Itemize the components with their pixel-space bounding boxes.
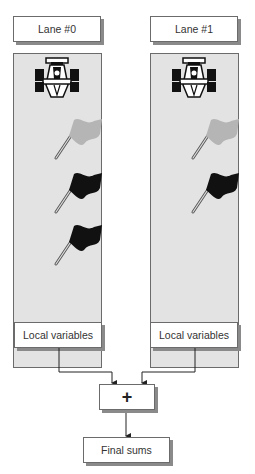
flag-black-icon	[52, 222, 102, 268]
race-car-icon	[32, 57, 82, 99]
flag-black-icon	[189, 170, 239, 216]
final-sums-label: Final sums	[101, 444, 152, 456]
final-sums-box: Final sums	[83, 437, 170, 463]
flag-gray-icon	[189, 116, 239, 162]
lane-0-header: Lane #0	[13, 16, 101, 42]
flag-gray-icon	[52, 116, 102, 162]
sum-operator-box: +	[99, 384, 155, 410]
lane-1-label: Lane #1	[175, 23, 213, 35]
flag-black-icon	[52, 170, 102, 216]
plus-icon: +	[122, 387, 133, 408]
lane-1-header: Lane #1	[150, 16, 238, 42]
lane-0-label: Lane #0	[38, 23, 76, 35]
race-car-icon	[169, 57, 219, 99]
